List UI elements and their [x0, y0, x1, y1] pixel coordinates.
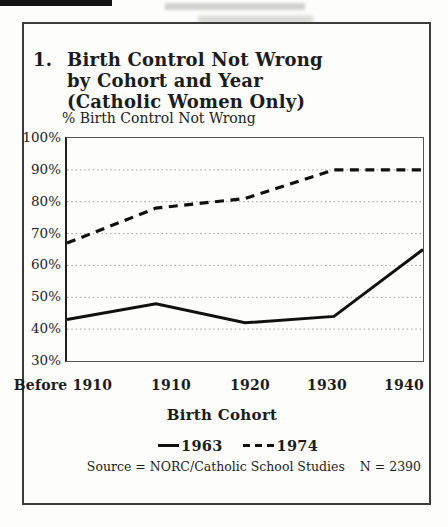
legend-label-1974: 1974 — [277, 437, 319, 454]
y-tick-label-90: 90% — [0, 160, 61, 178]
x-tick-label-1920: 1920 — [230, 377, 270, 393]
x-axis-title: Birth Cohort — [167, 406, 278, 424]
legend-item-1963: 1963 — [158, 437, 223, 454]
title-line-2: by Cohort and Year — [67, 70, 323, 91]
title-line-1: Birth Control Not Wrong — [67, 49, 323, 70]
y-tick-label-40: 40% — [0, 319, 61, 337]
y-tick-label-50: 50% — [0, 287, 61, 305]
legend-item-1974: 1974 — [243, 437, 319, 454]
y-tick-label-60: 60% — [0, 255, 61, 273]
x-axis-tick-labels: Before 19101910192019301940 — [0, 377, 448, 397]
plot-area — [65, 137, 424, 362]
y-tick-label-70: 70% — [0, 224, 61, 242]
title-line-3: (Catholic Women Only) — [67, 91, 323, 112]
scanned-figure-page: 1. Birth Control Not Wrong by Cohort and… — [0, 0, 448, 527]
y-tick-label-30: 30% — [0, 351, 61, 369]
source-text: Source = NORC/Catholic School Studies — [87, 459, 345, 474]
sample-size: N = 2390 — [360, 459, 421, 474]
x-tick-label-1930: 1930 — [307, 377, 347, 393]
series-line-1963 — [67, 250, 423, 323]
source-row: Source = NORC/Catholic School Studies N … — [87, 459, 421, 474]
y-tick-label-100: 100% — [0, 128, 61, 146]
series-line-1974 — [67, 170, 423, 243]
y-axis-title: % Birth Control Not Wrong — [62, 110, 256, 126]
y-axis-tick-labels: 100%90%80%70%60%50%40%30% — [0, 137, 61, 360]
x-tick-label-before-1910: Before 1910 — [14, 377, 112, 393]
y-tick-label-80: 80% — [0, 192, 61, 210]
figure-title: Birth Control Not Wrong by Cohort and Ye… — [67, 49, 323, 112]
chart-canvas — [67, 138, 423, 361]
scan-artifact-smudge — [165, 3, 305, 10]
dashed-line-swatch-icon — [243, 444, 274, 447]
figure-number: 1. — [33, 49, 52, 70]
legend-label-1963: 1963 — [181, 437, 223, 454]
scan-artifact-bar — [0, 0, 112, 6]
chart-legend: 1963 1974 — [158, 436, 318, 454]
x-tick-label-1910: 1910 — [151, 377, 191, 393]
solid-line-swatch-icon — [158, 444, 179, 447]
x-tick-label-1940: 1940 — [384, 377, 424, 393]
